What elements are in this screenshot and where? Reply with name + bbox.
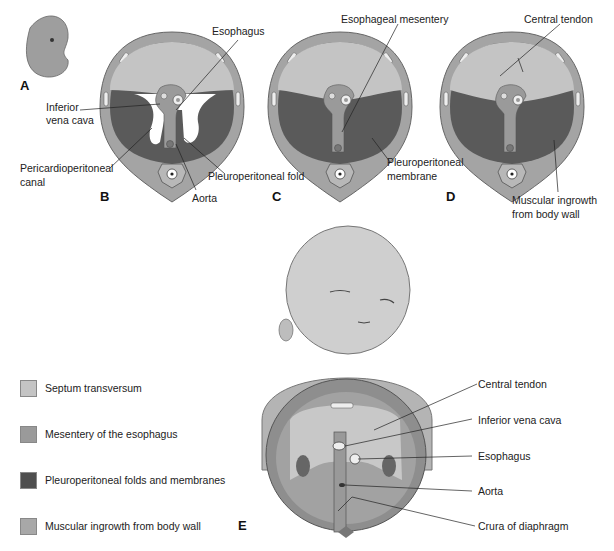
panel-letter-c: C: [272, 189, 281, 204]
legend-label: Muscular ingrowth from body wall: [45, 520, 201, 532]
legend-item-septum: Septum transversum: [20, 379, 142, 397]
legend-label: Pleuroperitoneal folds and membranes: [45, 474, 225, 486]
panel-letter-d: D: [446, 189, 455, 204]
label-muscular-ingrowth-1: Muscular ingrowth: [512, 194, 597, 206]
label-pcp-canal-2: canal: [20, 176, 45, 188]
label-ivc-b-2: vena cava: [46, 114, 94, 126]
label-ivc-b-1: Inferior: [46, 101, 79, 113]
panel-letter-b: B: [100, 189, 109, 204]
swatch-muscular: [20, 518, 37, 535]
label-aorta-b: Aorta: [192, 192, 217, 204]
swatch-septum: [20, 380, 37, 397]
label-central-tendon-e: Central tendon: [478, 378, 547, 390]
label-aorta-e: Aorta: [478, 485, 503, 497]
swatch-pleuroperitoneal: [20, 472, 37, 489]
label-pcp-canal-1: Pericardioperitoneal: [20, 162, 113, 174]
legend-item-muscular: Muscular ingrowth from body wall: [20, 517, 201, 535]
label-central-tendon-d: Central tendon: [524, 13, 593, 25]
legend-item-mesentery: Mesentery of the esophagus: [20, 425, 178, 443]
legend-label: Septum transversum: [45, 382, 142, 394]
label-crura: Crura of diaphragm: [478, 520, 568, 532]
panel-letter-a: A: [20, 78, 29, 93]
embryo-a: [26, 16, 68, 77]
panel-letter-e: E: [238, 518, 247, 533]
label-muscular-ingrowth-2: from body wall: [512, 208, 580, 220]
label-esophageal-mesentery: Esophageal mesentery: [341, 13, 448, 25]
legend-label: Mesentery of the esophagus: [45, 428, 178, 440]
swatch-mesentery: [20, 426, 37, 443]
label-esophagus-b: Esophagus: [212, 25, 265, 37]
infant-e: [262, 226, 432, 538]
label-esophagus-e: Esophagus: [478, 450, 531, 462]
label-pp-membrane-1: Pleuroperitoneal: [387, 156, 463, 168]
label-pp-membrane-2: membrane: [387, 170, 437, 182]
label-pleuroperitoneal-fold: Pleuroperitoneal fold: [208, 170, 304, 182]
section-d: [440, 32, 584, 202]
legend-item-pleuroperitoneal: Pleuroperitoneal folds and membranes: [20, 471, 225, 489]
diagram-drawing: [0, 0, 614, 551]
label-ivc-e: Inferior vena cava: [478, 414, 561, 426]
